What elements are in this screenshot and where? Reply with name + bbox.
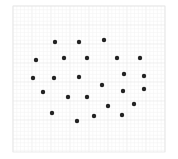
data-point	[115, 56, 119, 60]
data-point	[41, 90, 45, 94]
plot-grid	[13, 6, 165, 152]
data-point	[92, 114, 96, 118]
data-point	[100, 83, 104, 87]
data-point	[50, 111, 54, 115]
data-point	[120, 113, 124, 117]
data-point	[138, 56, 142, 60]
data-point	[77, 40, 81, 44]
data-point	[34, 58, 38, 62]
data-point	[53, 40, 57, 44]
data-point	[142, 74, 146, 78]
data-point	[142, 87, 146, 91]
data-point	[132, 102, 136, 106]
data-point	[77, 75, 81, 79]
data-points	[31, 38, 146, 123]
data-point	[122, 72, 126, 76]
data-point	[85, 95, 89, 99]
data-point	[75, 119, 79, 123]
data-point	[121, 89, 125, 93]
data-point	[62, 56, 66, 60]
data-point	[85, 56, 89, 60]
data-point	[106, 104, 110, 108]
data-point	[66, 95, 70, 99]
data-point	[102, 38, 106, 42]
data-point	[52, 76, 56, 80]
scatter-plot	[0, 0, 178, 159]
data-point	[31, 76, 35, 80]
